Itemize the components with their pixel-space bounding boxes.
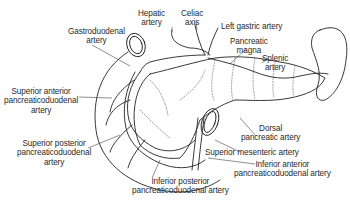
label-line: Splenic (262, 54, 288, 63)
label-superior-posterior-pd-artery: Superior posterior pancreaticoduodenal a… (17, 139, 91, 167)
left-gastric-artery (208, 28, 218, 55)
label-line: artery (17, 158, 91, 167)
label-line: Celiac (181, 9, 203, 18)
label-line: axis (181, 18, 203, 27)
label-inferior-posterior-pd-artery: Inferior posterior pancreaticoduodenal a… (132, 177, 229, 196)
label-line: pancreaticoduodenal (4, 96, 78, 105)
label-pancreatic-magna: Pancreatic magna (230, 37, 268, 56)
label-line: Superior mesenteric artery (205, 148, 299, 157)
label-line: Superior anterior (4, 87, 78, 96)
label-line: Superior posterior (17, 139, 91, 148)
label-splenic-artery: Splenic artery (262, 54, 288, 73)
smv-ring (198, 106, 223, 138)
label-superior-mesenteric-artery: Superior mesenteric artery (205, 148, 299, 157)
label-superior-anterior-pd-artery: Superior anterior pancreaticoduodenal ar… (4, 87, 78, 115)
label-line: artery (68, 36, 125, 45)
label-line: Gastroduodenal (68, 27, 125, 36)
hepatic-artery (172, 30, 210, 55)
label-hepatic-artery: Hepatic artery (138, 9, 165, 28)
label-line: artery (4, 106, 78, 115)
label-line: pancreatic artery (241, 133, 300, 142)
label-celiac-axis: Celiac axis (181, 9, 203, 28)
label-line: Left gastric artery (221, 22, 282, 31)
label-line: pancreaticoduodenal artery (234, 169, 331, 178)
pylorus-ring (123, 31, 148, 60)
label-inferior-anterior-pd-artery: Inferior anterior pancreaticoduodenal ar… (234, 160, 331, 179)
superior-mesenteric-artery (192, 118, 198, 170)
label-line: Dorsal (241, 124, 300, 133)
label-line: artery (262, 63, 288, 72)
label-left-gastric-artery: Left gastric artery (221, 22, 282, 31)
label-line: Hepatic (138, 9, 165, 18)
label-line: Pancreatic (230, 37, 268, 46)
duodenum-inner (124, 72, 205, 168)
label-line: Inferior posterior (132, 177, 229, 186)
label-dorsal-pancreatic-artery: Dorsal pancreatic artery (241, 124, 300, 143)
label-line: Inferior anterior (234, 160, 331, 169)
label-line: artery (138, 18, 165, 27)
label-gastroduodenal-artery: Gastroduodenal artery (68, 27, 125, 46)
spleen (311, 28, 346, 101)
label-line: pancreaticoduodenal artery (132, 186, 229, 195)
label-line: pancreaticoduodenal (17, 148, 91, 157)
pancreas-outline (134, 57, 325, 159)
